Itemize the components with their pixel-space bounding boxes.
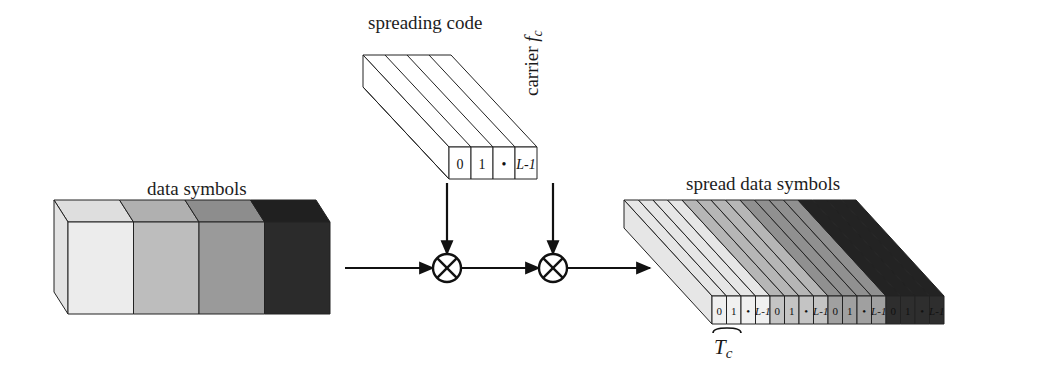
chip-label: 1 xyxy=(479,157,486,172)
chip-label: 0 xyxy=(891,305,897,317)
diagram-canvas: data symbols spreading code spread data … xyxy=(0,0,1051,380)
chip-label: 1 xyxy=(905,305,911,317)
chip-label: • xyxy=(502,157,507,172)
chip-label: 0 xyxy=(775,305,781,317)
data-symbol-top-3 xyxy=(251,200,331,222)
chip-label: 1 xyxy=(731,305,737,317)
chip-label: • xyxy=(920,305,924,317)
spread-data-symbols-block: 01•L-101•L-101•L-101•L-1 xyxy=(624,200,944,324)
chip-label: 1 xyxy=(789,305,795,317)
chip-label: 1 xyxy=(847,305,853,317)
data-symbols-block xyxy=(54,200,330,314)
chip-label: L-1 xyxy=(870,305,886,317)
chip-label: L-1 xyxy=(812,305,828,317)
chip-label: • xyxy=(862,305,866,317)
data-symbol-front-3 xyxy=(265,222,331,314)
chip-label: 0 xyxy=(457,157,464,172)
chip-label: L-1 xyxy=(928,305,944,317)
data-symbol-front-2 xyxy=(199,222,265,314)
diagram-vector-layer: 01•L-1 01•L-101•L-101•L-101•L-1 xyxy=(0,0,1051,380)
signal-flow-arrows xyxy=(345,183,650,268)
chip-duration-brace xyxy=(713,328,741,333)
chip-label: 0 xyxy=(833,305,839,317)
spreading-code-block: 01•L-1 xyxy=(363,55,537,179)
chip-label: 0 xyxy=(717,305,723,317)
data-symbol-front-0 xyxy=(68,222,134,314)
chip-label: • xyxy=(804,305,808,317)
tc-brace-path xyxy=(713,328,741,333)
chip-label: L-1 xyxy=(515,157,535,172)
chip-label: L-1 xyxy=(754,305,770,317)
chip-label: • xyxy=(746,305,750,317)
data-symbol-front-1 xyxy=(134,222,200,314)
